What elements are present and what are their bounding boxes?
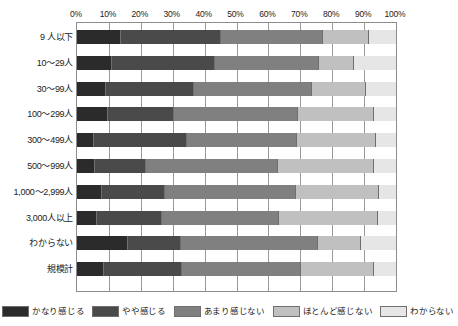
stacked-bar bbox=[77, 236, 396, 250]
stacked-bar bbox=[77, 262, 396, 276]
bar-segment bbox=[318, 236, 361, 250]
bar-segment bbox=[379, 185, 396, 199]
bar-segment bbox=[278, 159, 374, 173]
legend-item: あまり感じない bbox=[174, 306, 269, 317]
stacked-bar bbox=[77, 56, 396, 70]
chart-row: 3,000人以上 bbox=[77, 211, 396, 225]
stacked-bar bbox=[77, 107, 396, 121]
category-label: わからない bbox=[1, 236, 73, 250]
bar-segment bbox=[323, 30, 369, 44]
bar-segment bbox=[146, 159, 278, 173]
bar-segment bbox=[112, 56, 215, 70]
category-label: 9 人以下 bbox=[1, 30, 73, 44]
x-tick-label: 50% bbox=[227, 8, 243, 21]
bar-segment bbox=[77, 82, 106, 96]
chart-row: 300～499人 bbox=[77, 133, 396, 147]
bar-segment bbox=[369, 30, 396, 44]
category-label: 30～99人 bbox=[1, 82, 73, 96]
chart-row: わからない bbox=[77, 236, 396, 250]
legend-item: ほとんど感じない bbox=[273, 306, 377, 317]
stacked-bar bbox=[77, 185, 396, 199]
bar-segment bbox=[366, 82, 396, 96]
bar-segment bbox=[378, 211, 396, 225]
category-label: 10～29人 bbox=[1, 56, 73, 70]
bar-segment bbox=[376, 133, 396, 147]
bar-segment bbox=[354, 56, 396, 70]
bar-segment bbox=[121, 30, 221, 44]
legend-label: ほとんど感じない bbox=[303, 306, 373, 317]
legend-label: かなり感じる bbox=[32, 306, 84, 317]
stacked-bar bbox=[77, 82, 396, 96]
bar-segment bbox=[102, 185, 165, 199]
stacked-bar bbox=[77, 133, 396, 147]
legend-item: かなり感じる bbox=[2, 306, 88, 317]
x-tick-label: 30% bbox=[163, 8, 179, 21]
bar-segment bbox=[279, 211, 378, 225]
bar-segment bbox=[174, 107, 298, 121]
legend-swatch bbox=[174, 306, 201, 317]
bar-segment bbox=[297, 133, 376, 147]
chart-row: 100～299人 bbox=[77, 107, 396, 121]
bar-segment bbox=[77, 107, 108, 121]
bar-segment bbox=[298, 107, 374, 121]
legend-swatch bbox=[92, 306, 119, 317]
bar-segment bbox=[301, 262, 374, 276]
bar-segment bbox=[77, 56, 112, 70]
stacked-bar bbox=[77, 159, 396, 173]
legend-label: やや感じる bbox=[122, 306, 166, 317]
x-tick-label: 0% bbox=[70, 8, 82, 21]
x-tick-label: 90% bbox=[355, 8, 371, 21]
bar-segment bbox=[165, 185, 296, 199]
bar-segment bbox=[374, 159, 396, 173]
bar-segment bbox=[361, 236, 396, 250]
x-tick-label: 60% bbox=[259, 8, 275, 21]
category-label: 3,000人以上 bbox=[1, 211, 73, 225]
legend-label: わからない bbox=[410, 306, 454, 317]
bar-segment bbox=[104, 262, 182, 276]
chart-row: 1,000～2,999人 bbox=[77, 185, 396, 199]
category-label: 300～499人 bbox=[1, 133, 73, 147]
bar-segment bbox=[77, 30, 121, 44]
legend-swatch bbox=[380, 306, 407, 317]
bar-segment bbox=[97, 211, 162, 225]
legend-swatch bbox=[273, 306, 300, 317]
bar-segment bbox=[162, 211, 279, 225]
bar-segment bbox=[194, 82, 312, 96]
bar-segment bbox=[77, 133, 94, 147]
bar-segment bbox=[319, 56, 354, 70]
x-tick-label: 80% bbox=[323, 8, 339, 21]
bar-segment bbox=[77, 211, 97, 225]
bar-segment bbox=[187, 133, 297, 147]
legend-item: やや感じる bbox=[92, 306, 170, 317]
bar-segment bbox=[312, 82, 366, 96]
chart-row: 規模計 bbox=[77, 262, 396, 276]
bar-segment bbox=[77, 236, 128, 250]
legend-swatch bbox=[2, 306, 29, 317]
chart-row: 500～999人 bbox=[77, 159, 396, 173]
category-label: 500～999人 bbox=[1, 159, 73, 173]
chart-row: 9 人以下 bbox=[77, 30, 396, 44]
stacked-bar bbox=[77, 211, 396, 225]
x-tick-label: 10% bbox=[100, 8, 116, 21]
bar-segment bbox=[77, 185, 102, 199]
bar-segment bbox=[374, 107, 396, 121]
legend-item: わからない bbox=[380, 306, 458, 317]
x-tick-label: 70% bbox=[291, 8, 307, 21]
chart-row: 30～99人 bbox=[77, 82, 396, 96]
category-label: 100～299人 bbox=[1, 107, 73, 121]
bar-segment bbox=[221, 30, 323, 44]
category-label: 規模計 bbox=[1, 262, 73, 276]
category-label: 1,000～2,999人 bbox=[1, 185, 73, 199]
bar-segment bbox=[77, 159, 95, 173]
bar-segment bbox=[296, 185, 379, 199]
chart-legend: かなり感じるやや感じるあまり感じないほとんど感じないわからない bbox=[2, 303, 414, 319]
x-tick-label: 100% bbox=[385, 8, 406, 21]
bar-segment bbox=[106, 82, 194, 96]
x-tick-label: 20% bbox=[132, 8, 148, 21]
bar-segment bbox=[182, 262, 301, 276]
bar-segment bbox=[215, 56, 319, 70]
bar-segment bbox=[128, 236, 181, 250]
bar-segment bbox=[94, 133, 187, 147]
bar-segment bbox=[95, 159, 146, 173]
